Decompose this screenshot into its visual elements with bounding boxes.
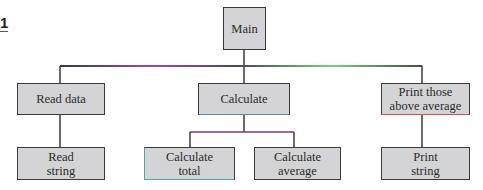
node-print-above-average-label: Print those above average <box>390 85 462 113</box>
node-main: Main <box>223 7 266 50</box>
node-read-data-label: Read data <box>36 92 86 106</box>
label-line-1: Calculate <box>166 150 213 164</box>
node-calculate-total-label: Calculate total <box>166 150 213 178</box>
label-line-2: total <box>178 164 200 178</box>
node-calculate-total: Calculate total <box>144 147 235 180</box>
node-main-label: Main <box>231 22 257 36</box>
node-calculate-label: Calculate <box>220 92 267 106</box>
node-print-above-average: Print those above average <box>381 83 470 115</box>
node-print-string-label: Print string <box>411 150 439 178</box>
label-line-1: Print those <box>399 85 453 99</box>
node-read-string: Read string <box>17 147 105 180</box>
node-calculate-average: Calculate average <box>254 147 341 180</box>
node-calculate: Calculate <box>198 83 290 115</box>
label-line-2: string <box>411 164 439 178</box>
label-line-2: average <box>278 164 317 178</box>
node-calculate-average-label: Calculate average <box>274 150 321 178</box>
label-line-2: above average <box>390 99 462 113</box>
node-read-string-label: Read string <box>47 150 75 178</box>
label-line-1: Print <box>413 150 437 164</box>
node-print-string: Print string <box>381 147 470 180</box>
node-read-data: Read data <box>17 83 105 115</box>
label-line-2: string <box>47 164 75 178</box>
label-line-1: Read <box>48 150 74 164</box>
label-line-1: Calculate <box>274 150 321 164</box>
